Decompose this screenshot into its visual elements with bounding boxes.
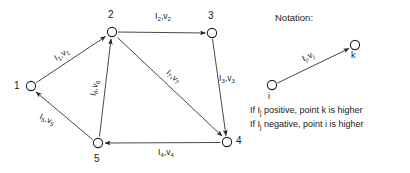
node-5 [93, 138, 102, 147]
rule-negative-pre: If I [250, 119, 260, 129]
rule-positive-pre: If I [250, 105, 260, 115]
node-label-2: 2 [108, 10, 114, 20]
edge-2-to-3 [118, 32, 206, 33]
notation-title: Notation: [275, 12, 313, 23]
edge-label-2: I2,v2 [155, 12, 171, 22]
notation-node-k [350, 40, 359, 49]
rule-negative-post: negative, point i is higher [261, 119, 363, 129]
edge-1-to-2 [37, 37, 106, 83]
node-4 [222, 137, 231, 146]
notation-node-label-k: k [351, 51, 356, 60]
notation-node-i [267, 80, 276, 89]
edge-4-to-5 [105, 143, 221, 144]
edge-3-to-4 [213, 39, 227, 136]
node-label-1: 1 [14, 81, 20, 91]
diagram-vector-layer [0, 0, 410, 173]
node-3 [207, 28, 216, 37]
edge-label-4: I4,v4 [158, 148, 174, 158]
edge-2-to-4 [118, 38, 223, 137]
edge-5-to-2 [100, 39, 112, 137]
node-2 [107, 27, 116, 36]
node-label-5: 5 [94, 154, 100, 164]
notation-rule-negative: If Ij negative, point i is higher [250, 119, 364, 130]
node-label-3: 3 [208, 11, 214, 21]
edge-label-3: I3,v3 [219, 74, 235, 84]
diagram-canvas: 1 2 3 4 5 I1,v1 I2,v2 I3,v3 I4,v4 I5,v5 … [0, 0, 410, 173]
notation-rule-positive: If Ij positive, point k is higher [250, 105, 363, 116]
notation-node-label-i: i [268, 92, 270, 101]
node-label-4: 4 [236, 136, 242, 146]
node-1 [26, 81, 35, 90]
rule-positive-post: positive, point k is higher [261, 105, 362, 115]
